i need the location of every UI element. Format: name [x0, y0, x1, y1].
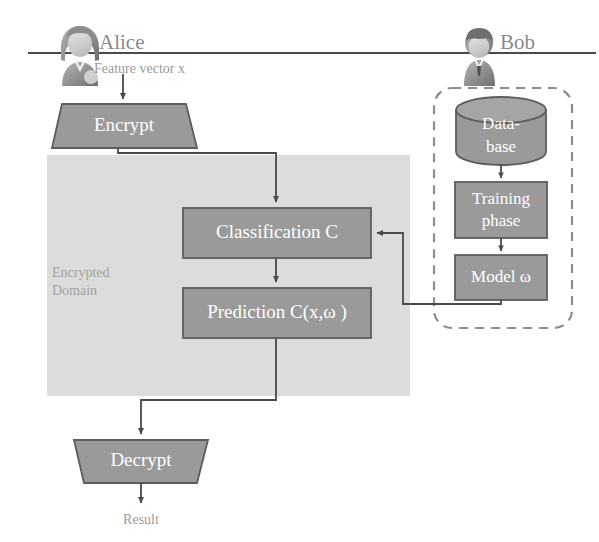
decrypt-label: Decrypt	[110, 449, 172, 470]
diagram-canvas: Encrypted Domain Alice Feature vector x	[0, 0, 599, 542]
encrypt-label: Encrypt	[94, 114, 155, 135]
encrypted-domain-label-line1: Encrypted	[52, 265, 110, 280]
result-label: Result	[123, 512, 159, 527]
bob-avatar-icon	[464, 28, 495, 86]
database-label-line2: base	[486, 137, 516, 156]
alice-avatar-icon	[61, 26, 99, 86]
encrypted-domain-label-line2: Domain	[52, 283, 97, 298]
training-label-line2: phase	[482, 211, 521, 230]
prediction-label: Prediction C(x,ω )	[207, 301, 347, 323]
alice-label: Alice	[99, 30, 144, 54]
bob-label: Bob	[500, 30, 535, 54]
training-label-line1: Training	[472, 189, 530, 208]
diagram-svg: Encrypted Domain Alice Feature vector x	[0, 0, 599, 542]
database-label-line1: Data-	[482, 114, 520, 133]
classification-label: Classification C	[216, 221, 338, 242]
feature-vector-caption: Feature vector x	[94, 61, 185, 76]
model-label: Model ω	[471, 267, 531, 286]
